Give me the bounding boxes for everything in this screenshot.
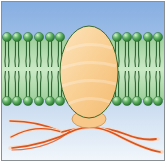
lipid-head [23,96,32,105]
lipid-head [132,96,141,105]
lipid-head [112,96,121,105]
membrane-protein-illustration [0,0,167,164]
lipid-head [34,32,43,41]
lipid-head [112,32,121,41]
lipid-head [153,96,162,105]
lipid-head [122,96,131,105]
lipid-head [132,32,141,41]
lipid-head [122,32,131,41]
lipid-head [12,32,21,41]
lipid-head [2,32,11,41]
membrane-diagram [0,0,167,164]
lipid-head [45,96,54,105]
lipid-head [153,32,162,41]
lipid-head [143,32,152,41]
lipid-head [2,96,11,105]
lipid-head [12,96,21,105]
lipid-head [23,32,32,41]
lipid-head [34,96,43,105]
lipid-head [143,96,152,105]
lipid-head [55,32,64,41]
lipid-head [55,96,64,105]
lipid-head [45,32,54,41]
